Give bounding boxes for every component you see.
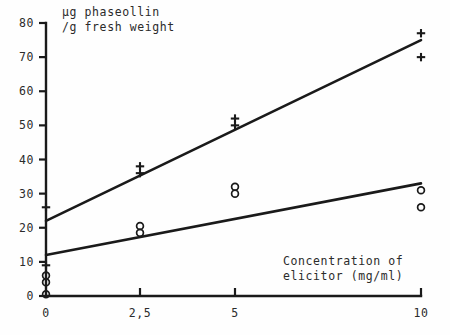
y-tick-label: 10 — [10, 255, 34, 269]
x-tick-label: 2,5 — [123, 306, 157, 320]
x-axis-title: Concentration of elicitor (mg/ml) — [283, 254, 403, 284]
fit-lines — [46, 40, 421, 255]
x-tick-label: 5 — [218, 306, 252, 320]
y-tick-label: 60 — [10, 84, 34, 98]
y-tick-label: 30 — [10, 187, 34, 201]
x-tick-label: 0 — [29, 306, 63, 320]
y-tick-label: 50 — [10, 118, 34, 132]
y-axis-title: µg phaseollin /g fresh weight — [62, 5, 175, 35]
y-tick-label: 80 — [10, 16, 34, 30]
y-tick-label: 70 — [10, 50, 34, 64]
y-tick-label: 20 — [10, 221, 34, 235]
x-tick-label: 10 — [404, 306, 438, 320]
chart-figure: µg phaseollin /g fresh weight Concentrat… — [0, 0, 450, 335]
y-tick-label: 40 — [10, 153, 34, 167]
plot-area — [0, 0, 450, 335]
y-tick-label: 0 — [10, 289, 34, 303]
